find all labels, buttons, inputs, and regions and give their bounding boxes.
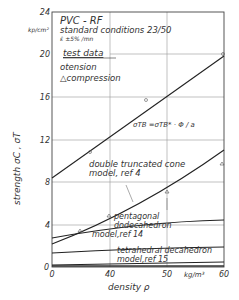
td-label-1: tetrahedral decahedron	[117, 246, 212, 255]
legend-tension: otension	[60, 62, 97, 72]
x-tick: 0	[49, 270, 54, 279]
x-unit: kg/m³	[184, 271, 205, 279]
legend-compression: △compression	[60, 73, 121, 83]
chart: 24 20 16 12 8 4 0 kp/cm² 0 40 50 60 kg/m…	[0, 0, 239, 300]
y-tick: 8	[45, 178, 50, 187]
pd-label-1: pentagonal	[113, 212, 160, 221]
legend-heading: test data	[63, 48, 103, 58]
x-tick: 60	[219, 270, 229, 279]
y-tick: 16	[40, 93, 50, 102]
chart-subtitle: standard conditions 23/50	[60, 25, 171, 35]
y-tick: 12	[40, 136, 50, 145]
x-tick: 40	[105, 270, 115, 279]
y-unit: kp/cm²	[28, 26, 49, 34]
pd-label-2: dodecahedron	[114, 221, 172, 230]
y-tick: 4	[45, 221, 50, 230]
td-label-2: model,ref 15	[117, 255, 168, 264]
x-tick: 50	[162, 270, 172, 279]
y-tick: 20	[40, 50, 50, 59]
dtc-label-2: model, ref 4	[89, 168, 141, 178]
formula-annotation: σTB =σTB* · Φ / a	[133, 121, 195, 129]
y-tick: 0	[44, 263, 49, 272]
y-axis-label: strength σC , σT	[12, 131, 22, 205]
pd-label-3: model,ref 14	[92, 230, 143, 239]
x-axis-label: density ρ	[108, 282, 150, 292]
rate-note: ε̇ ±5% /mn	[60, 35, 93, 42]
y-tick: 24	[40, 8, 50, 17]
